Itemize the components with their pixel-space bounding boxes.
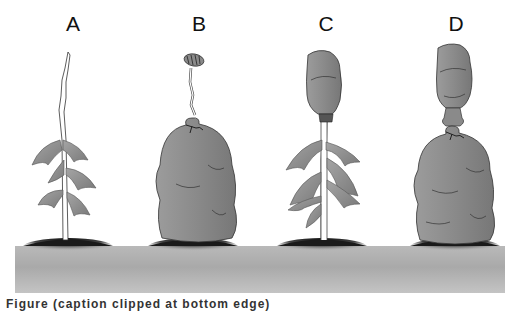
apical-bud: [183, 52, 205, 67]
plant-b: [156, 52, 237, 242]
panel-label-d: D: [441, 12, 471, 36]
leaf: [306, 204, 321, 228]
leaf: [32, 140, 62, 165]
panel-label-b: B: [184, 12, 214, 36]
bag: [437, 44, 473, 108]
leaf: [67, 192, 90, 216]
leaf: [286, 140, 322, 170]
figure-caption: Figure (caption clipped at bottom edge): [6, 297, 270, 311]
bag: [307, 51, 342, 114]
bag: [156, 118, 237, 242]
leaf: [38, 190, 63, 208]
leaf: [66, 168, 96, 190]
panel-label-a: A: [58, 12, 88, 36]
plant-a: [32, 52, 96, 240]
plant-d: [414, 44, 495, 244]
leaf: [48, 160, 64, 183]
bag: [414, 126, 495, 244]
panel-label-c: C: [311, 12, 341, 36]
plant-c: [286, 51, 360, 240]
